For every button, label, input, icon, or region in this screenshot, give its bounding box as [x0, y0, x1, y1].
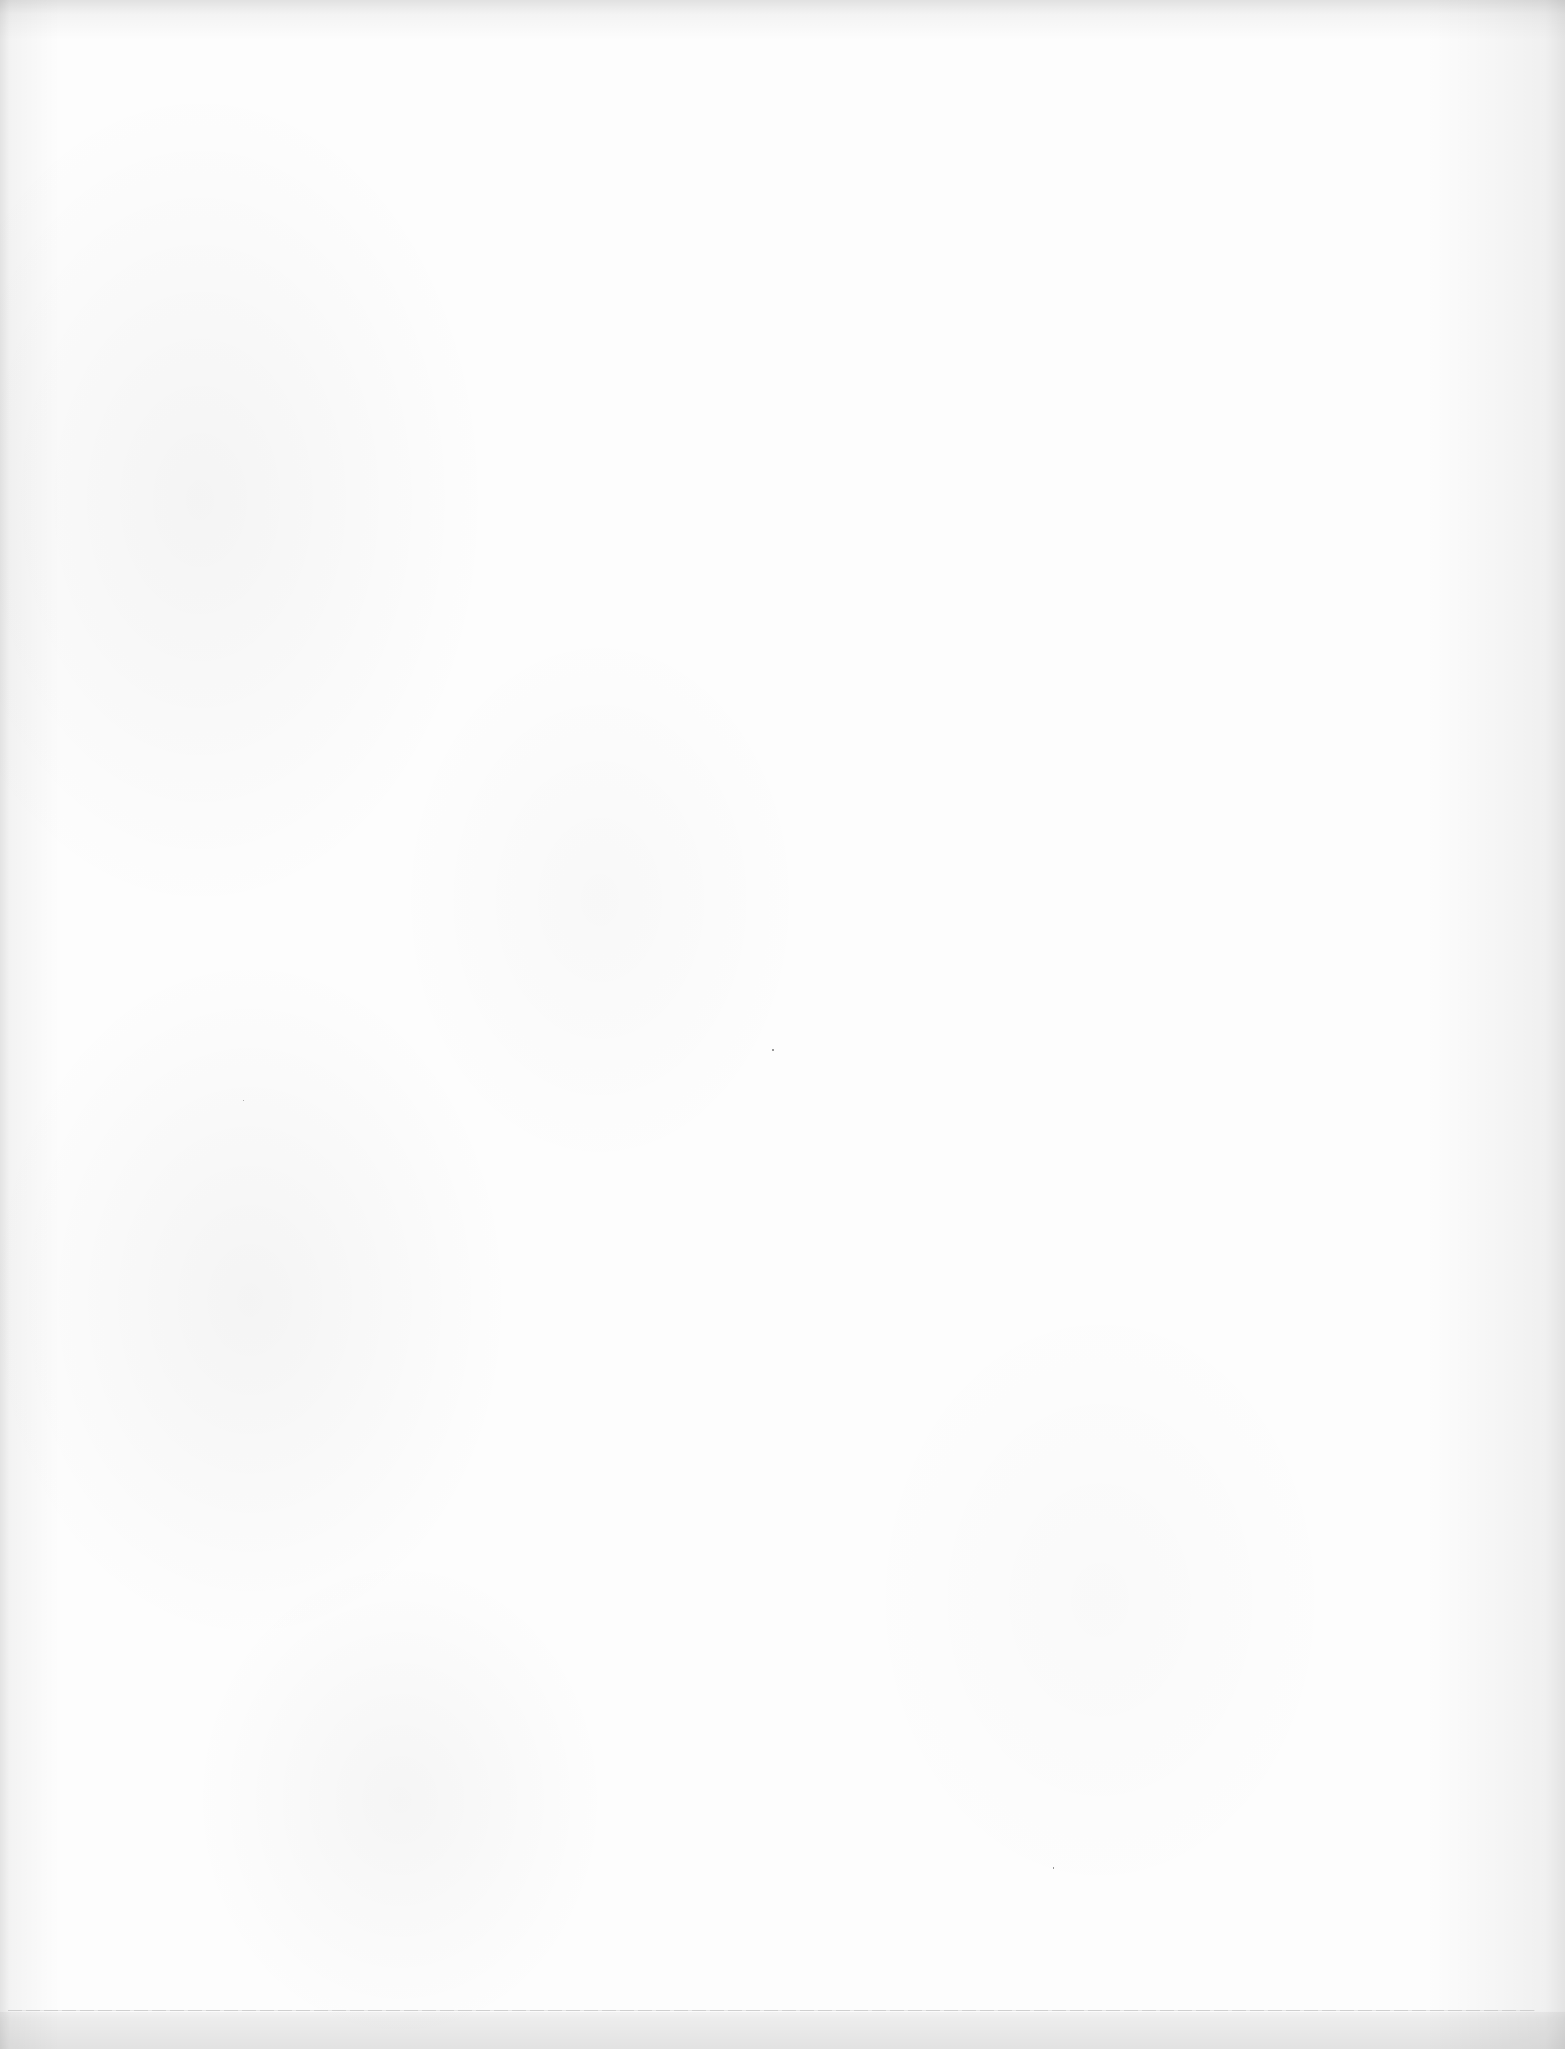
- paper-speck: [1053, 1867, 1054, 1869]
- paper-speck: [243, 1100, 244, 1101]
- scanned-page: [0, 0, 1565, 2049]
- paper-texture: [0, 0, 1565, 2049]
- bottom-rule-line: [8, 2010, 1535, 2011]
- bottom-edge-band: [0, 2012, 1565, 2049]
- paper-speck: [772, 1049, 774, 1051]
